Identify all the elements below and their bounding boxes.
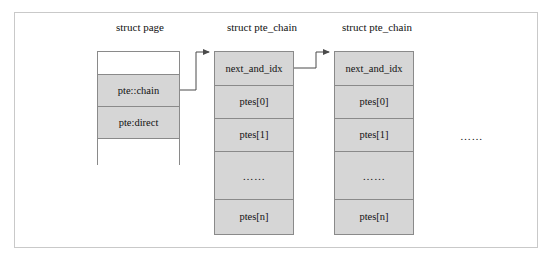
pte-chain-2-cell-ptes-0: ptes[0] [335, 86, 413, 119]
struct-page-box: pte::chain pte:direct [97, 51, 180, 165]
pte-chain-box-2: next_and_idx ptes[0] ptes[1] …… ptes[n] [334, 51, 414, 235]
pte-chain-1-cell-ptes-n: ptes[n] [215, 200, 293, 234]
struct-page-cell-pte-direct: pte:direct [98, 107, 179, 139]
pte-chain-1-cell-ellipsis: …… [215, 152, 293, 200]
pte-chain-1-cell-ptes-0: ptes[0] [215, 86, 293, 119]
pte-chain-1-cell-ptes-1: ptes[1] [215, 119, 293, 152]
struct-page-cell-0 [98, 52, 179, 75]
pte-chain-2-cell-ellipsis: …… [335, 152, 413, 200]
caption-struct-page: struct page [75, 20, 205, 34]
pte-chain-2-cell-ptes-1: ptes[1] [335, 119, 413, 152]
pte-chain-2-cell-ptes-n: ptes[n] [335, 200, 413, 234]
pte-chain-diagram: struct page struct pte_chain struct pte_… [0, 0, 552, 262]
struct-page-cell-3 [98, 139, 179, 166]
pte-chain-1-cell-next-and-idx: next_and_idx [215, 52, 293, 86]
struct-page-cell-pte-chain: pte::chain [98, 75, 179, 107]
pte-chain-2-cell-next-and-idx: next_and_idx [335, 52, 413, 86]
pte-chain-box-1: next_and_idx ptes[0] ptes[1] …… ptes[n] [214, 51, 294, 235]
caption-struct-pte-chain-2: struct pte_chain [312, 20, 442, 34]
trailing-ellipsis: …… [460, 130, 483, 142]
caption-struct-pte-chain-1: struct pte_chain [197, 20, 327, 34]
